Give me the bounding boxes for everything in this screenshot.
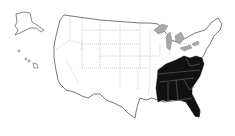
us-map <box>0 0 235 136</box>
alaska-region <box>15 12 44 35</box>
hawaii-region <box>18 50 38 68</box>
